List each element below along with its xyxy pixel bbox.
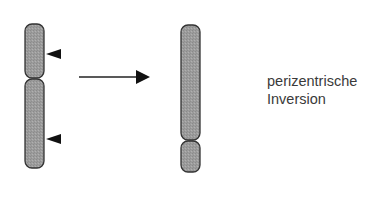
chromosome-after-short-arm: [181, 141, 200, 172]
chromosome-before-short-arm: [25, 24, 44, 78]
diagram-caption: perizentrische Inversion: [267, 72, 357, 108]
chromosome-after: [181, 25, 200, 172]
chromosome-before-long-arm: [25, 79, 44, 168]
right-arrow-icon: [79, 70, 150, 84]
breakpoint-marker-lower-icon: [46, 134, 61, 144]
chromosome-before: [25, 24, 61, 168]
caption-line-2: Inversion: [267, 90, 357, 108]
chromosome-after-long-arm: [181, 25, 200, 140]
breakpoint-marker-upper-icon: [46, 49, 61, 59]
caption-line-1: perizentrische: [267, 72, 357, 90]
